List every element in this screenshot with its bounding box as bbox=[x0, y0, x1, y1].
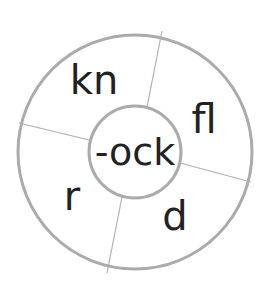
segment-label-d: d bbox=[162, 193, 187, 239]
word-wheel-diagram: -ock kn fl d r bbox=[0, 0, 265, 297]
segment-label-r: r bbox=[64, 173, 81, 219]
segment-label-fl: fl bbox=[191, 96, 216, 142]
center-label: -ock bbox=[95, 130, 176, 174]
segment-label-kn: kn bbox=[70, 57, 119, 103]
